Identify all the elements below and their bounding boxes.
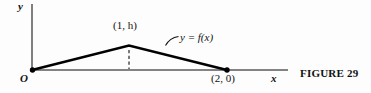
figure-29-container: y x O (1, h) (2, 0) y = f(x) FIGURE 29 <box>0 0 371 93</box>
origin-label: O <box>20 73 28 84</box>
origin-point-marker <box>30 67 35 72</box>
peak-point-label: (1, h) <box>113 20 137 31</box>
graph-canvas <box>0 0 371 93</box>
curve-label-leader-line <box>166 37 179 46</box>
endpoint-label: (2, 0) <box>211 73 235 84</box>
x-axis-label: x <box>271 73 277 84</box>
curve-equation-label: y = f(x) <box>180 32 213 43</box>
y-axis-label: y <box>18 1 23 12</box>
figure-caption: FIGURE 29 <box>300 67 358 79</box>
